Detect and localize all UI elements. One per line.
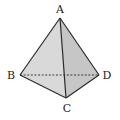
vertex-label-a: A [55, 3, 65, 16]
vertex-label-c: C [63, 102, 71, 115]
vertex-label-d: D [103, 69, 112, 82]
face-acd [60, 18, 99, 98]
vertex-label-b: B [7, 69, 15, 82]
diagram-svg: A B C D [0, 0, 120, 120]
tetrahedron-diagram: A B C D [0, 0, 120, 120]
